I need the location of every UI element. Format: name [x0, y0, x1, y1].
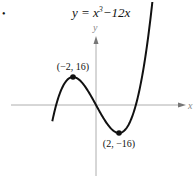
y-axis-label: y: [92, 22, 98, 33]
point-label: (2, −16): [103, 138, 135, 150]
point-label: (−2, 16): [57, 61, 89, 73]
x-axis-arrow: [178, 103, 186, 108]
title-rest: −12x: [103, 5, 131, 20]
title-base: y = x: [70, 5, 99, 20]
chart-title: y = x3−12x: [70, 5, 131, 20]
y-axis-arrow: [94, 36, 99, 44]
item-bullet: •: [2, 8, 6, 19]
extremum-point: [70, 74, 76, 80]
chart: • y = x3−12x x y (−2, 16)(2, −16): [0, 0, 195, 176]
extremum-point: [116, 130, 122, 136]
x-axis-label: x: [187, 100, 193, 111]
